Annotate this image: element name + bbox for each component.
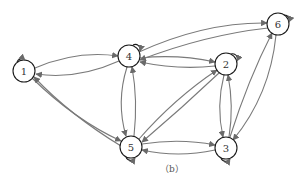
node-3: 3 <box>215 137 237 161</box>
edge-2-5 <box>142 73 219 142</box>
svg-text:5: 5 <box>128 142 134 153</box>
svg-text:1: 1 <box>21 66 27 77</box>
edge-4-6 <box>139 23 267 52</box>
edge-5-2 <box>139 70 217 139</box>
svg-text:4: 4 <box>126 51 132 62</box>
edge-3-6 <box>230 33 272 137</box>
svg-text:2: 2 <box>223 59 229 70</box>
edge-5-3 <box>142 141 215 145</box>
figure-caption: （b） <box>160 164 184 174</box>
edges <box>32 23 276 154</box>
edge-2-4 <box>140 62 215 67</box>
edge-3-2 <box>228 75 231 137</box>
svg-text:3: 3 <box>223 143 229 154</box>
edge-4-5 <box>121 67 127 136</box>
node-1: 1 <box>13 59 35 82</box>
graph-diagram: 1 4 2 6 5 3 （b） <box>0 0 297 183</box>
node-2: 2 <box>215 53 238 75</box>
svg-text:6: 6 <box>275 19 281 30</box>
edge-6-3 <box>233 35 276 140</box>
node-6: 6 <box>267 13 289 35</box>
edge-3-5 <box>142 150 215 154</box>
node-5: 5 <box>120 136 142 160</box>
edge-2-3 <box>220 75 224 137</box>
edge-4-2 <box>140 57 215 62</box>
node-4: 4 <box>118 44 140 67</box>
edge-5-1 <box>34 77 121 146</box>
edge-5-4 <box>132 67 136 136</box>
edge-1-5 <box>32 78 121 141</box>
